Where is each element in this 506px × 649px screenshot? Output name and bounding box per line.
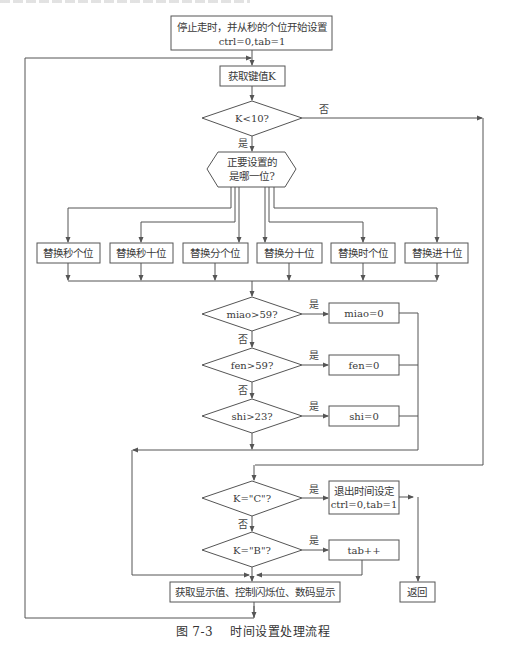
display-box-label: 获取显示值、控制闪烁位、数码显示 — [175, 586, 335, 598]
k-eq-b-label: K="B"? — [233, 545, 271, 556]
exit-setting-line1: 退出时间设定 — [334, 485, 395, 497]
shi-check-label: shi>23? — [231, 411, 272, 422]
edge-label-yes-k10: 是 — [238, 138, 248, 149]
replace-box-label: 替换分十位 — [264, 247, 315, 259]
miao-check-label: miao>59? — [226, 309, 277, 320]
tab-inc-label: tab++ — [347, 545, 380, 556]
shi-set-label: shi=0 — [349, 411, 379, 422]
which-digit-line1: 正要设置的 — [227, 156, 277, 168]
edge-label-no-c: 否 — [238, 519, 248, 530]
exit-setting-line2: ctrl=0,tab=1 — [331, 499, 398, 510]
flowchart: 停止走时，并从秒的个位开始设置 ctrl=0,tab=1 获取键值K K<10?… — [0, 0, 506, 649]
replace-box-label: 替换秒个位 — [43, 247, 94, 259]
edge-label-yes-fen: 是 — [309, 350, 319, 361]
return-box-label: 返回 — [407, 586, 427, 598]
edge-label-no-fen: 否 — [238, 385, 248, 396]
get-key-label: 获取键值K — [228, 70, 276, 82]
figure-title: 时间设置处理流程 — [230, 622, 330, 639]
edge-label-yes-miao: 是 — [309, 299, 319, 310]
figure-caption: 图 7-3 时间设置处理流程 — [0, 622, 506, 639]
k-lt-10-label: K<10? — [235, 113, 269, 124]
which-digit-line2: 是哪一位? — [229, 170, 275, 182]
edge-label-yes-c: 是 — [309, 484, 319, 495]
k-eq-c-label: K="C"? — [233, 493, 271, 504]
replace-box-label: 替换进十位 — [412, 247, 463, 259]
miao-set-label: miao=0 — [344, 308, 383, 319]
figure-number: 图 7-3 — [176, 622, 214, 639]
edge-label-no-k10: 否 — [319, 104, 329, 115]
start-box-line1: 停止走时，并从秒的个位开始设置 — [177, 21, 327, 33]
fen-check-label: fen>59? — [231, 360, 274, 371]
replace-box-label: 替换时个位 — [338, 247, 389, 259]
replace-box-label: 替换秒十位 — [116, 247, 167, 259]
edge-label-no-miao: 否 — [238, 334, 248, 345]
edge-label-yes-b: 是 — [309, 535, 319, 546]
fen-set-label: fen=0 — [349, 360, 380, 371]
replace-box-label: 替换分个位 — [190, 247, 241, 259]
edge-label-yes-shi: 是 — [309, 401, 319, 412]
start-box-line2: ctrl=0,tab=1 — [219, 36, 286, 47]
